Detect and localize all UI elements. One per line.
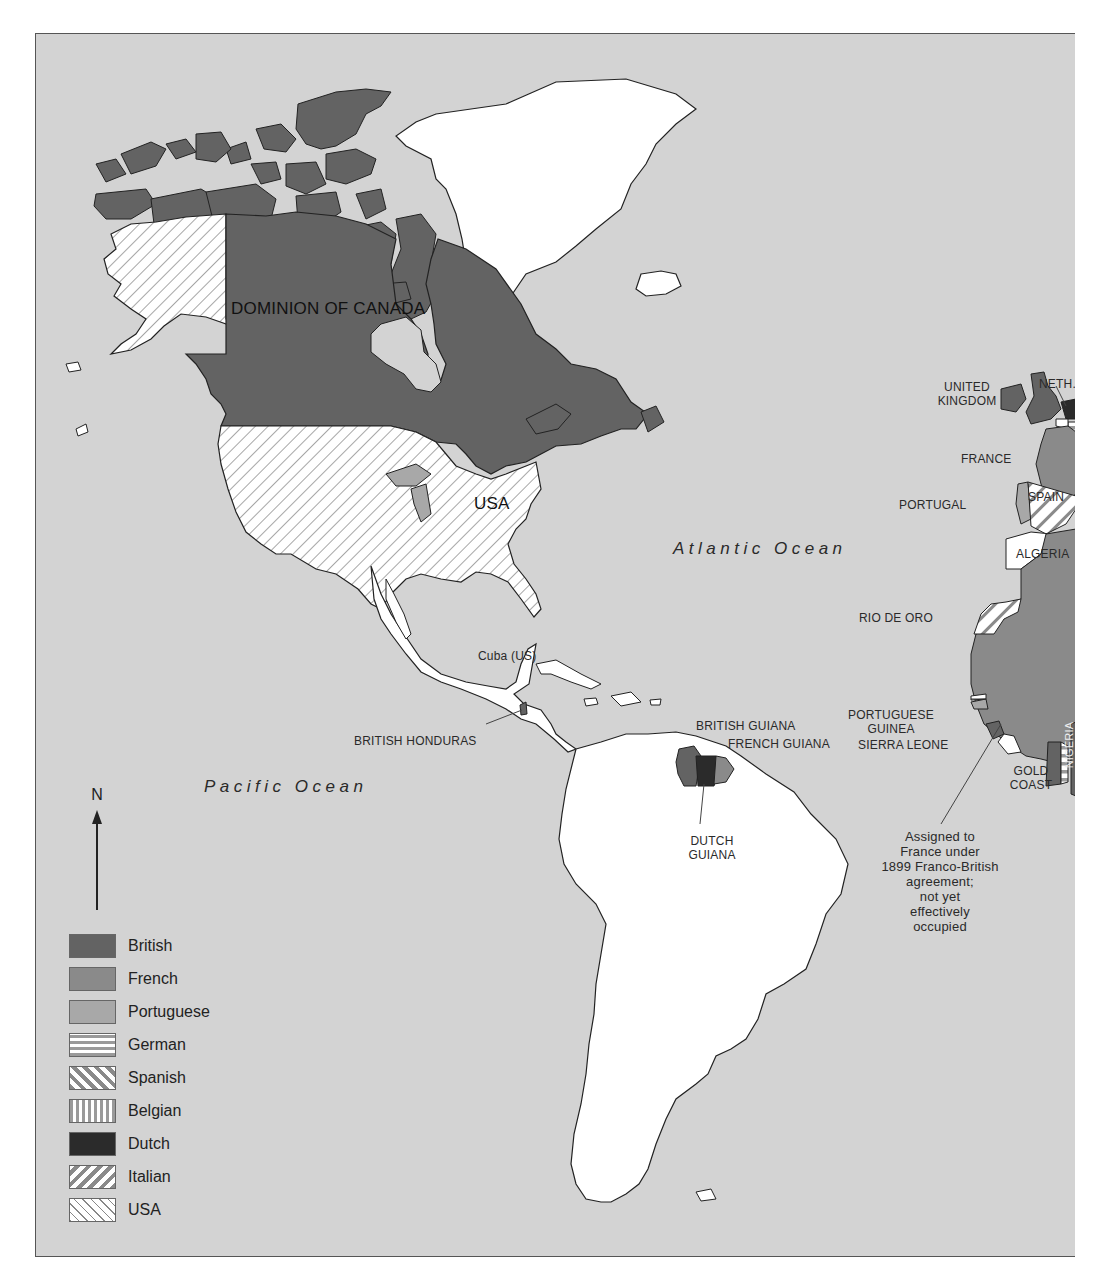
legend-item-italian: Italian: [69, 1160, 210, 1193]
annotation-leader: [941, 724, 1001, 824]
annotation-line2: France under: [870, 844, 1010, 859]
label-gold-coast-line2: COAST: [1006, 778, 1056, 792]
netherlands: [1061, 399, 1075, 419]
north-arrow-icon: [92, 810, 102, 824]
label-dutch-guiana: DUTCH GUIANA: [682, 834, 742, 862]
legend-item-portuguese: Portuguese: [69, 995, 210, 1028]
spanish-swatch-icon: [69, 1066, 116, 1090]
legend-label: Portuguese: [128, 1003, 210, 1021]
annotation-line4: agreement;: [870, 874, 1010, 889]
label-algeria: ALGERIA: [1016, 547, 1069, 561]
british-honduras-leader: [486, 710, 522, 724]
french-swatch-icon: [69, 967, 116, 991]
label-portuguese-guinea-line1: PORTUGUESE: [841, 708, 941, 722]
compass: N: [87, 786, 107, 910]
legend-label: British: [128, 937, 172, 955]
label-atlantic-ocean: Atlantic Ocean: [673, 539, 847, 559]
label-dutch-guiana-line1: DUTCH: [682, 834, 742, 848]
german-swatch-icon: [69, 1033, 116, 1057]
label-portuguese-guinea-line2: GUINEA: [841, 722, 941, 736]
dutch-swatch-icon: [69, 1132, 116, 1156]
legend-item-british: British: [69, 929, 210, 962]
cuba: [536, 660, 601, 689]
british-swatch-icon: [69, 934, 116, 958]
legend-item-german: German: [69, 1028, 210, 1061]
label-sierra-leone: SIERRA LEONE: [858, 738, 948, 752]
label-united-kingdom: UNITED KINGDOM: [931, 380, 1003, 408]
italian-swatch-icon: [69, 1165, 116, 1189]
ireland: [1001, 384, 1026, 412]
label-france: FRANCE: [961, 452, 1012, 466]
legend-label: German: [128, 1036, 186, 1054]
label-spain: SPAIN: [1028, 490, 1064, 504]
label-netherlands: NETH.: [1039, 377, 1075, 391]
label-french-guiana: FRENCH GUIANA: [728, 737, 830, 751]
label-portuguese-guinea: PORTUGUESE GUINEA: [841, 708, 941, 736]
british-honduras: [520, 702, 527, 715]
legend-item-dutch: Dutch: [69, 1127, 210, 1160]
belgian-swatch-icon: [69, 1099, 116, 1123]
annotation-line6: effectively: [870, 904, 1010, 919]
label-british-guiana: BRITISH GUIANA: [696, 719, 795, 733]
label-united-kingdom-line2: KINGDOM: [931, 394, 1003, 408]
iceland: [636, 271, 681, 296]
legend-label: Dutch: [128, 1135, 170, 1153]
legend-label: Spanish: [128, 1069, 186, 1087]
label-united-kingdom-line1: UNITED: [931, 380, 1003, 394]
map-frame: DOMINION OF CANADA USA Cuba (US) BRITISH…: [35, 33, 1075, 1257]
mexico-central-america: [371, 566, 576, 752]
compass-label: N: [87, 786, 107, 804]
annotation-line5: not yet: [870, 889, 1010, 904]
annotation-line7: occupied: [870, 919, 1010, 934]
legend-item-french: French: [69, 962, 210, 995]
portuguese-swatch-icon: [69, 1000, 116, 1024]
legend: British French Portuguese German Spanish…: [69, 929, 210, 1226]
annotation-line1: Assigned to: [870, 829, 1010, 844]
usa-swatch-icon: [69, 1198, 116, 1222]
north-arrow-shaft: [96, 824, 98, 910]
legend-label: USA: [128, 1201, 161, 1219]
label-rio-de-oro: RIO DE ORO: [859, 611, 933, 625]
portuguese-guinea: [971, 699, 988, 709]
legend-item-spanish: Spanish: [69, 1061, 210, 1094]
label-gold-coast-line1: GOLD: [1006, 764, 1056, 778]
annotation-line3: 1899 Franco-British: [870, 859, 1010, 874]
label-british-honduras: BRITISH HONDURAS: [354, 734, 477, 748]
label-usa: USA: [474, 494, 510, 514]
legend-item-belgian: Belgian: [69, 1094, 210, 1127]
annotation-franco-british: Assigned to France under 1899 Franco-Bri…: [870, 829, 1010, 934]
legend-label: French: [128, 970, 178, 988]
legend-label: Belgian: [128, 1102, 181, 1120]
label-nigeria: NIGERIA: [1063, 722, 1075, 769]
legend-label: Italian: [128, 1168, 171, 1186]
legend-item-usa: USA: [69, 1193, 210, 1226]
label-pacific-ocean: Pacific Ocean: [204, 777, 367, 797]
label-canada: DOMINION OF CANADA: [231, 299, 425, 319]
label-gold-coast: GOLD COAST: [1006, 764, 1056, 792]
label-dutch-guiana-line2: GUIANA: [682, 848, 742, 862]
label-cuba: Cuba (US): [478, 649, 536, 663]
label-portugal: PORTUGAL: [899, 498, 966, 512]
south-america: [559, 732, 848, 1202]
